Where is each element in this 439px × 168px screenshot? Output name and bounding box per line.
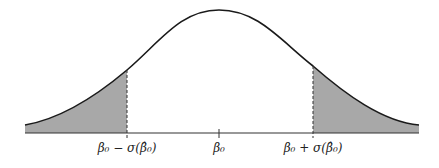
- normal-distribution-figure: β₀ − σ(β̂₀) β₀ β₀ + σ(β̂₀): [0, 0, 439, 168]
- left-tick-label: β₀ − σ(β̂₀): [98, 141, 157, 155]
- center-tick-label: β₀: [213, 141, 225, 155]
- right-tick-label: β₀ + σ(β̂₀): [284, 141, 343, 155]
- left-tail-shaded-region: [25, 70, 127, 133]
